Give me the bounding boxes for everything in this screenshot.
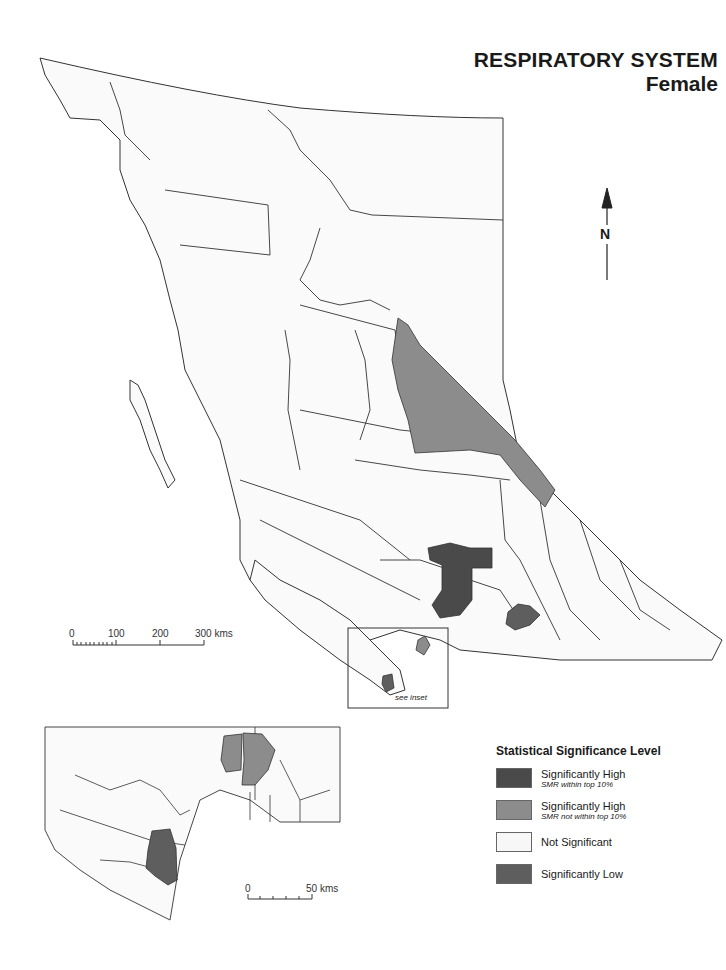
- main-scale-tick-300: 300 kms: [195, 628, 233, 639]
- inset-region-high-a: [221, 734, 242, 772]
- inset-scale-bar: [248, 894, 312, 899]
- legend-heading: Statistical Significance Level: [496, 744, 716, 758]
- legend-sublabel: SMR not within top 10%: [541, 812, 626, 822]
- legend-swatch-light: [496, 832, 532, 852]
- region-high-lowermainland-small: [416, 636, 430, 655]
- inset-scale-tick-0: 0: [245, 883, 251, 894]
- legend-label: Significantly Low: [541, 868, 623, 880]
- legend-label: Not Significant: [541, 836, 612, 848]
- legend-item-high-top10: Significantly High SMR within top 10%: [496, 768, 716, 790]
- legend-item-low: Significantly Low: [496, 864, 716, 886]
- legend-label: Significantly High: [541, 800, 626, 812]
- inset-scale-tick-50: 50 kms: [306, 883, 338, 894]
- main-scale-tick-0: 0: [69, 628, 75, 639]
- legend-item-not-significant: Not Significant: [496, 832, 716, 854]
- legend-sublabel: SMR within top 10%: [541, 780, 625, 790]
- legend: Statistical Significance Level Significa…: [496, 744, 716, 896]
- legend-swatch-low: [496, 864, 532, 884]
- legend-item-high: Significantly High SMR not within top 10…: [496, 800, 716, 822]
- legend-swatch-dark: [496, 768, 532, 788]
- legend-label: Significantly High: [541, 768, 625, 780]
- north-label: N: [600, 226, 610, 242]
- legend-swatch-medium: [496, 800, 532, 820]
- main-scale-tick-100: 100: [108, 628, 125, 639]
- main-scale-bar: [73, 640, 204, 645]
- main-scale-tick-200: 200: [152, 628, 169, 639]
- inset-map: [45, 727, 340, 920]
- see-inset-label: see inset: [395, 693, 427, 702]
